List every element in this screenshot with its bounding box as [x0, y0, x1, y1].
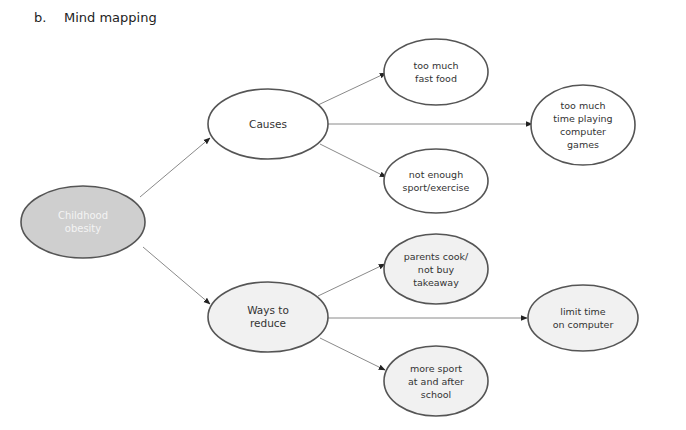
node-label-computer-games: too much time playing computer games: [531, 85, 635, 165]
node-label-causes: Causes: [208, 89, 328, 159]
node-label-ways-to-reduce: Ways to reduce: [208, 282, 328, 352]
node-label-parents-cook: parents cook/ not buy takeaway: [384, 234, 488, 304]
node-label-more-sport: more sport at and after school: [384, 346, 488, 416]
arrow-causes-to-sport: [320, 144, 386, 177]
arrow-ways-to-moresport: [320, 338, 385, 370]
node-label-not-enough-sport: not enough sport/exercise: [384, 149, 488, 213]
node-label-childhood-obesity: Childhood obesity: [21, 186, 145, 258]
arrow-causes-to-fastfood: [318, 73, 386, 105]
arrow-center-to-causes: [140, 138, 210, 197]
connectors: [140, 73, 532, 370]
arrow-ways-to-parents: [318, 264, 385, 296]
node-label-limit-time: limit time on computer: [528, 285, 638, 351]
arrow-center-to-ways: [143, 247, 210, 304]
node-label-fast-food: too much fast food: [384, 39, 488, 105]
